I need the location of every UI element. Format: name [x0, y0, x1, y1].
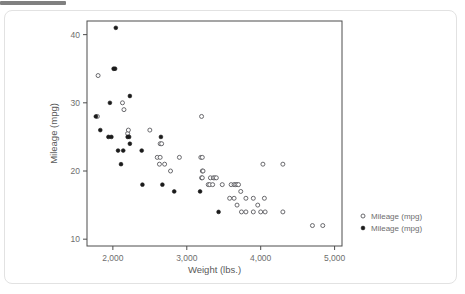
- screenshot-root: 2,0003,0004,0005,00010203040Weight (lbs.…: [0, 0, 465, 294]
- data-point-s1-0: [114, 26, 118, 30]
- data-point-s0-28: [220, 183, 224, 187]
- data-point-s1-5: [94, 115, 98, 119]
- data-point-s0-10: [157, 162, 161, 166]
- data-point-s0-34: [239, 189, 243, 193]
- data-point-s0-12: [169, 169, 173, 173]
- data-point-s0-16: [200, 114, 204, 118]
- scatter-chart: 2,0003,0004,0005,00010203040Weight (lbs.…: [5, 11, 458, 285]
- data-point-s0-9: [158, 155, 162, 159]
- data-point-s0-33: [237, 183, 241, 187]
- data-point-s0-47: [259, 210, 263, 214]
- data-point-s0-35: [228, 196, 232, 200]
- data-point-s0-50: [310, 224, 314, 228]
- y-tick-label-20: 20: [71, 166, 81, 176]
- data-point-s0-5: [148, 128, 152, 132]
- legend-marker-1: [361, 226, 365, 230]
- data-point-s1-19: [172, 190, 176, 194]
- data-point-s0-43: [281, 162, 285, 166]
- data-point-s0-2: [122, 108, 126, 112]
- data-point-s0-40: [256, 203, 260, 207]
- chart-card: 2,0003,0004,0005,00010203040Weight (lbs.…: [4, 10, 457, 284]
- data-point-s1-16: [119, 162, 123, 166]
- data-point-s1-14: [140, 149, 144, 153]
- data-point-s0-4: [126, 128, 130, 132]
- data-point-s1-12: [116, 149, 120, 153]
- legend-marker-0: [361, 214, 365, 218]
- data-point-s0-20: [200, 176, 204, 180]
- data-point-s0-41: [261, 162, 265, 166]
- x-axis-title: Weight (lbs.): [188, 264, 241, 275]
- data-point-s0-44: [239, 210, 243, 214]
- data-point-s0-36: [232, 196, 236, 200]
- data-point-s0-18: [201, 169, 205, 173]
- data-point-s0-24: [214, 176, 218, 180]
- data-point-s1-17: [141, 183, 145, 187]
- data-point-s0-49: [281, 210, 285, 214]
- y-axis-title: Mileage (mpg): [48, 103, 59, 164]
- top-grey-bar: [0, 1, 66, 5]
- data-point-s0-38: [244, 196, 248, 200]
- data-point-s0-13: [177, 155, 181, 159]
- x-tick-label-4000: 4,000: [250, 253, 272, 263]
- scatter-plot-svg: 2,0003,0004,0005,00010203040Weight (lbs.…: [5, 11, 458, 285]
- y-tick-label-30: 30: [71, 98, 81, 108]
- y-tick-label-40: 40: [71, 30, 81, 40]
- x-tick-label-3000: 3,000: [176, 253, 198, 263]
- data-point-s0-39: [251, 196, 255, 200]
- data-point-s0-48: [263, 210, 267, 214]
- data-point-s1-15: [128, 142, 132, 146]
- data-point-s1-8: [109, 135, 113, 139]
- x-tick-label-2000: 2,000: [102, 253, 124, 263]
- data-point-s1-10: [127, 135, 131, 139]
- data-point-s0-11: [163, 162, 167, 166]
- data-point-s0-27: [211, 183, 215, 187]
- data-point-s0-42: [262, 196, 266, 200]
- data-point-s0-1: [120, 101, 124, 105]
- data-point-s0-45: [244, 210, 248, 214]
- legend-label-0: Mileage (mpg): [371, 212, 422, 221]
- data-point-s1-18: [160, 183, 164, 187]
- data-point-s0-51: [321, 224, 325, 228]
- data-point-s1-2: [113, 67, 117, 71]
- legend-label-1: Mileage (mpg): [371, 224, 422, 233]
- data-point-s1-21: [217, 210, 221, 214]
- data-point-s0-46: [251, 210, 255, 214]
- y-tick-label-10: 10: [71, 234, 81, 244]
- data-point-s1-11: [159, 135, 163, 139]
- data-point-s0-15: [200, 155, 204, 159]
- data-point-s1-6: [98, 128, 102, 132]
- data-point-s0-37: [235, 203, 239, 207]
- data-point-s1-4: [128, 94, 132, 98]
- x-tick-label-5000: 5,000: [324, 253, 346, 263]
- data-point-s0-7: [160, 142, 164, 146]
- data-point-s1-3: [108, 101, 112, 105]
- data-point-s1-13: [121, 149, 125, 153]
- data-point-s0-0: [96, 74, 100, 78]
- data-point-s1-20: [198, 190, 202, 194]
